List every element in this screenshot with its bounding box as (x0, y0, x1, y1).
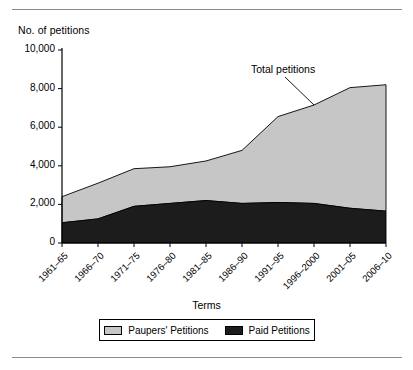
legend-entry-paid: Paid Petitions (225, 325, 310, 336)
annotation-leader-line (285, 77, 314, 105)
y-tick-label: 0 (7, 236, 55, 247)
figure-container: No. of petitions 10,0008,0006,0004,0002,… (0, 0, 413, 370)
annotation-total-petitions: Total petitions (251, 63, 315, 75)
legend-entry-paupers: Paupers' Petitions (104, 325, 208, 336)
legend-swatch-paid (225, 326, 243, 335)
x-axis-title: Terms (0, 299, 413, 311)
y-tick-label: 8,000 (7, 82, 55, 93)
chart-plot-area (0, 0, 413, 370)
y-tick-label: 4,000 (7, 159, 55, 170)
y-tick-label: 10,000 (7, 43, 55, 54)
y-tick-label: 2,000 (7, 197, 55, 208)
legend-label-paid: Paid Petitions (249, 325, 310, 336)
y-tick-label: 6,000 (7, 120, 55, 131)
legend-swatch-paupers (104, 326, 122, 335)
legend-label-paupers: Paupers' Petitions (128, 325, 208, 336)
chart-legend: Paupers' Petitions Paid Petitions (99, 319, 315, 341)
